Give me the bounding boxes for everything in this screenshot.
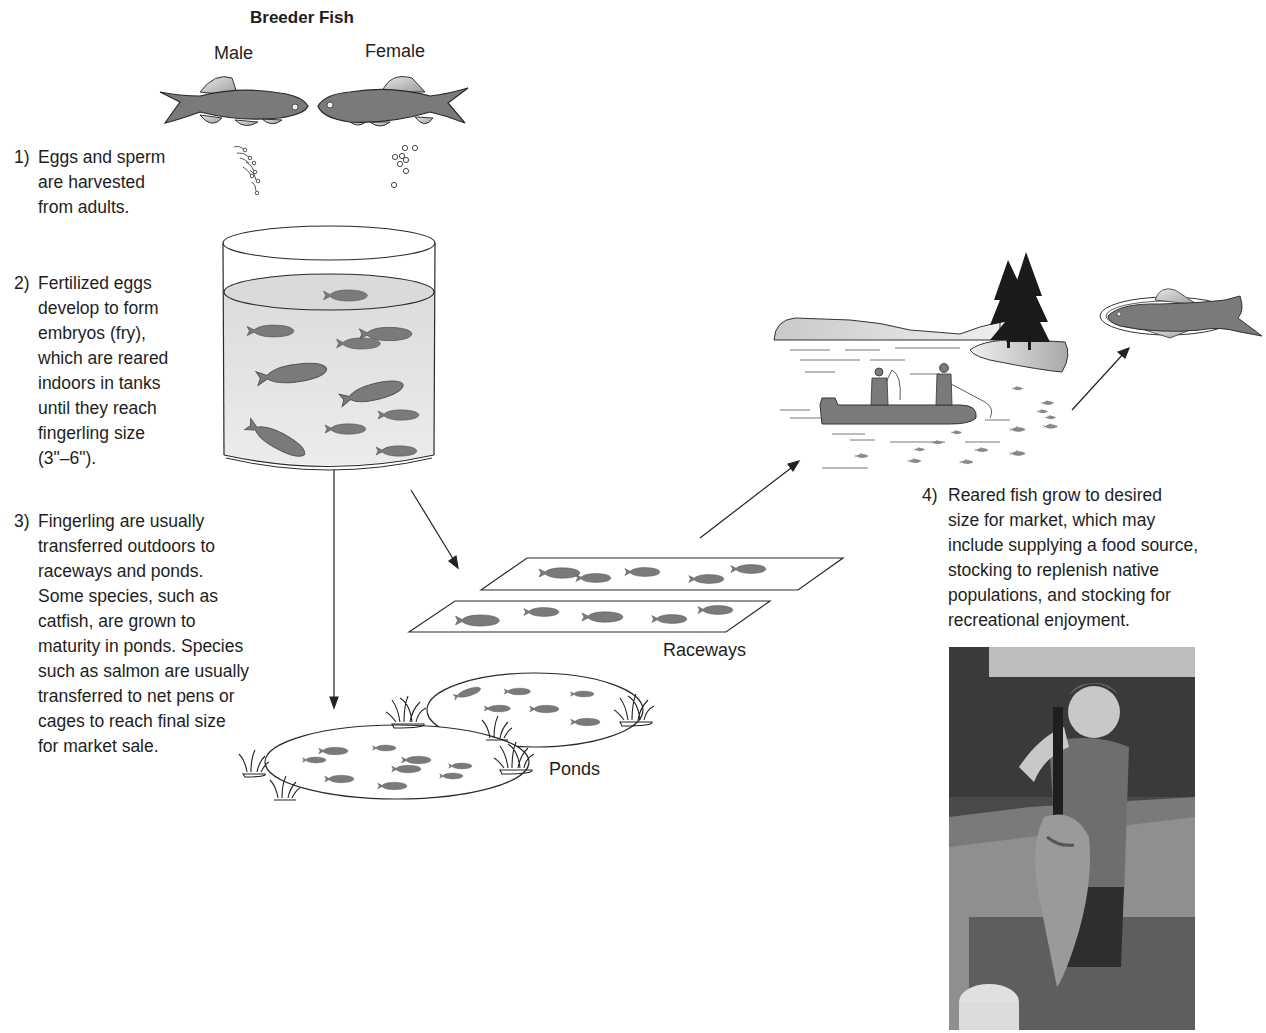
step-number: 3) — [14, 509, 38, 759]
step-3-line: for market sale. — [38, 734, 249, 759]
step-4-line: Reared fish grow to desired — [948, 483, 1198, 508]
step-2-line: which are reared — [38, 346, 168, 371]
step-2-line: develop to form — [38, 296, 168, 321]
step-3-line: transferred to net pens or — [38, 684, 249, 709]
step-4-line: recreational enjoyment. — [948, 608, 1198, 633]
ponds-icon — [265, 673, 643, 799]
step-2-line: fingerling size — [38, 421, 168, 446]
step-4: 4) Reared fish grow to desired size for … — [922, 483, 1266, 633]
step-3-line: Some species, such as — [38, 584, 249, 609]
step-3-line: transferred outdoors to — [38, 534, 249, 559]
female-fish-icon — [318, 77, 468, 126]
step-4-line: include supplying a food source, — [948, 533, 1198, 558]
step-3-line: maturity in ponds. Species — [38, 634, 249, 659]
lake-scene-icon — [774, 252, 1068, 468]
step-3-line: cages to reach final size — [38, 709, 249, 734]
tree-icon — [990, 252, 1050, 350]
step-4-line: size for market, which may — [948, 508, 1198, 533]
photo-child-with-bass — [949, 647, 1195, 1030]
eggs-icon — [391, 145, 417, 187]
step-2-line: until they reach — [38, 396, 168, 421]
step-3-line: raceways and ponds. — [38, 559, 249, 584]
step-2-line: embryos (fry), — [38, 321, 168, 346]
step-1-line: Eggs and sperm — [38, 145, 165, 170]
ponds-label: Ponds — [549, 759, 600, 780]
step-1-line: are harvested — [38, 170, 165, 195]
step-2: 2) Fertilized eggs develop to form embry… — [14, 271, 214, 471]
step-number: 2) — [14, 271, 38, 471]
step-number: 1) — [14, 145, 38, 220]
plated-fish-icon — [1100, 289, 1262, 338]
tank-icon — [223, 226, 435, 470]
step-3-line: such as salmon are usually — [38, 659, 249, 684]
female-label: Female — [365, 41, 425, 62]
step-3-line: Fingerling are usually — [38, 509, 249, 534]
raceways-label: Raceways — [663, 640, 746, 661]
step-4-line: stocking to replenish native — [948, 558, 1198, 583]
step-1-line: from adults. — [38, 195, 165, 220]
step-3-line: catfish, are grown to — [38, 609, 249, 634]
male-fish-icon — [160, 77, 308, 126]
step-number: 4) — [922, 483, 948, 633]
diagram-title: Breeder Fish — [250, 8, 354, 28]
step-2-line: Fertilized eggs — [38, 271, 168, 296]
step-2-line: (3"–6"). — [38, 446, 168, 471]
step-2-line: indoors in tanks — [38, 371, 168, 396]
step-3: 3) Fingerling are usually transferred ou… — [14, 509, 314, 759]
step-4-line: populations, and stocking for — [948, 583, 1198, 608]
step-1: 1) Eggs and sperm are harvested from adu… — [14, 145, 214, 220]
raceways-icon — [409, 558, 843, 632]
male-label: Male — [214, 43, 253, 64]
sperm-icon — [234, 146, 260, 194]
